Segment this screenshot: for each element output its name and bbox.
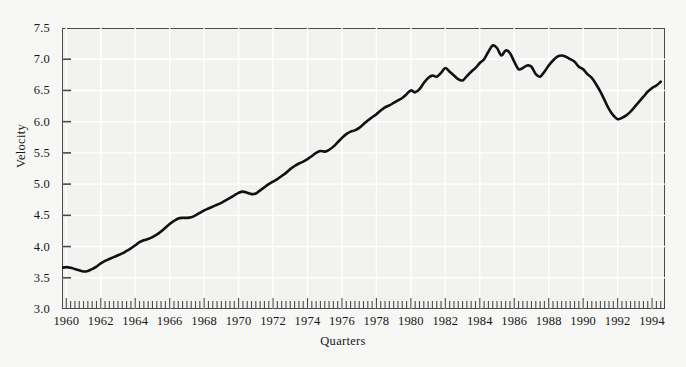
velocity-chart-figure: Velocity 7.57.06.56.05.55.04.54.03.53.0 … <box>0 0 686 367</box>
y-tick-label: 5.0 <box>34 177 50 192</box>
x-tick-label: 1986 <box>501 314 527 329</box>
series-path-0 <box>62 45 661 271</box>
plot-area <box>62 28 665 309</box>
x-tick-label: 1992 <box>605 314 631 329</box>
x-tick-label: 1982 <box>432 314 458 329</box>
y-tick-label: 6.0 <box>34 114 50 129</box>
x-tick-label: 1970 <box>226 314 252 329</box>
y-tick-label: 5.5 <box>34 145 50 160</box>
x-tick-label: 1984 <box>467 314 493 329</box>
x-tick-label: 1988 <box>536 314 562 329</box>
x-axis-tick-labels: 1960196219641966196819701972197419761978… <box>62 314 665 334</box>
x-tick-label: 1972 <box>260 314 286 329</box>
y-tick-label: 4.5 <box>34 208 50 223</box>
y-tick-label: 4.0 <box>34 239 50 254</box>
x-tick-label: 1964 <box>122 314 148 329</box>
y-tick-label: 3.0 <box>34 302 50 317</box>
y-tick-label: 7.5 <box>34 21 50 36</box>
x-axis-title: Quarters <box>0 334 686 349</box>
x-tick-label: 1966 <box>157 314 183 329</box>
x-tick-label: 1976 <box>329 314 355 329</box>
x-tick-label: 1968 <box>191 314 217 329</box>
x-tick-label: 1962 <box>88 314 114 329</box>
y-axis-tick-labels: 7.57.06.56.05.55.04.54.03.53.0 <box>0 28 58 309</box>
y-tick-label: 6.5 <box>34 83 50 98</box>
x-tick-label: 1980 <box>398 314 424 329</box>
y-tick-label: 3.5 <box>34 270 50 285</box>
velocity-line-series <box>62 28 665 309</box>
x-tick-label: 1978 <box>364 314 390 329</box>
x-tick-label: 1994 <box>639 314 665 329</box>
y-tick-label: 7.0 <box>34 52 50 67</box>
x-tick-label: 1960 <box>53 314 79 329</box>
x-tick-label: 1974 <box>295 314 321 329</box>
x-tick-label: 1990 <box>570 314 596 329</box>
